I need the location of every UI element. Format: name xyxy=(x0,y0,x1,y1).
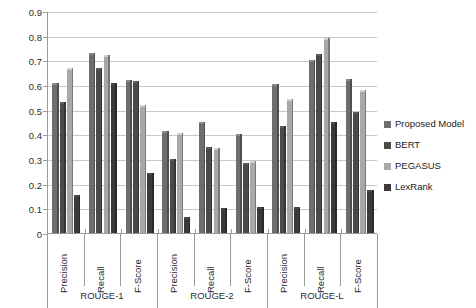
group-boundary xyxy=(47,234,48,308)
legend-swatch-icon xyxy=(384,121,391,128)
legend-item[interactable]: LexRank xyxy=(384,179,476,195)
y-axis-tick-mark xyxy=(43,185,47,186)
category-tick xyxy=(305,229,306,234)
y-axis-tick-label: 0.8 xyxy=(6,31,42,42)
group-divider xyxy=(157,234,158,308)
category-divider xyxy=(230,234,231,286)
legend-label: PEGASUS xyxy=(395,161,441,171)
cluster-separators xyxy=(48,12,377,233)
legend-swatch-icon xyxy=(384,163,391,170)
x-axis-category-label: F-Score xyxy=(352,259,363,293)
category-tick xyxy=(121,229,122,234)
y-axis-tick-label: 0.1 xyxy=(6,204,42,215)
y-axis-tick-mark xyxy=(43,37,47,38)
legend-item[interactable]: Proposed Model xyxy=(384,116,476,132)
y-axis-tick-mark xyxy=(43,160,47,161)
legend: Proposed ModelBERTPEGASUSLexRank xyxy=(384,116,476,200)
category-tick xyxy=(158,229,159,234)
category-tick xyxy=(231,229,232,234)
y-axis-tick-label: 0.4 xyxy=(6,130,42,141)
category-tick xyxy=(195,229,196,234)
legend-label: LexRank xyxy=(395,182,433,192)
legend-swatch-icon xyxy=(384,184,391,191)
y-axis-tick-label: 0.5 xyxy=(6,105,42,116)
y-axis-tick-mark xyxy=(43,12,47,13)
category-divider xyxy=(340,234,341,286)
x-axis-category-label: Precision xyxy=(168,254,179,293)
y-axis-tick-label: 0.6 xyxy=(6,81,42,92)
y-axis-tick-label: 0 xyxy=(6,229,42,240)
y-axis-tick-label: 0.7 xyxy=(6,56,42,67)
category-divider xyxy=(194,234,195,286)
y-axis-tick-mark xyxy=(43,209,47,210)
y-axis-tick-mark xyxy=(43,135,47,136)
category-tick xyxy=(341,229,342,234)
y-axis-tick-label: 0.3 xyxy=(6,155,42,166)
x-axis-category-label: Precision xyxy=(58,254,69,293)
legend-label: Proposed Model xyxy=(395,119,464,129)
x-axis-group-label: ROUGE-1 xyxy=(47,290,157,301)
category-divider xyxy=(304,234,305,286)
y-axis-tick-mark xyxy=(43,111,47,112)
group-boundary xyxy=(377,234,378,308)
legend-item[interactable]: PEGASUS xyxy=(384,158,476,174)
category-divider xyxy=(84,234,85,286)
group-divider xyxy=(267,234,268,308)
legend-item[interactable]: BERT xyxy=(384,137,476,153)
x-axis-group-label: ROUGE-L xyxy=(267,290,377,301)
legend-swatch-icon xyxy=(384,142,391,149)
plot-area xyxy=(47,12,377,234)
y-axis-tick-label: 0.2 xyxy=(6,179,42,190)
x-axis-category-label: F-Score xyxy=(242,259,253,293)
category-tick xyxy=(85,229,86,234)
x-axis-category-label: F-Score xyxy=(132,259,143,293)
x-axis-category-label: Precision xyxy=(278,254,289,293)
category-divider xyxy=(120,234,121,286)
category-tick xyxy=(268,229,269,234)
x-axis-group-label: ROUGE-2 xyxy=(157,290,267,301)
y-axis-tick-label: 0.9 xyxy=(6,7,42,18)
y-axis-tick-mark xyxy=(43,61,47,62)
y-axis-tick-mark xyxy=(43,86,47,87)
legend-label: BERT xyxy=(395,140,420,150)
